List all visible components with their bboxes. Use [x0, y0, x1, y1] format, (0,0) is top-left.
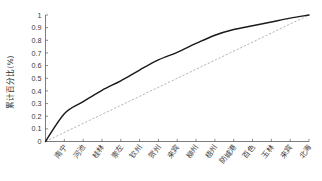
x-tick-label: 河池	[72, 142, 88, 159]
x-tick-label: 来宾	[166, 143, 182, 160]
y-tick-label: 0	[38, 137, 42, 146]
x-tick-label: 桂林	[90, 142, 106, 159]
y-tick-label: 0.2	[32, 112, 42, 121]
y-tick-label: 0.5	[32, 74, 42, 83]
x-tick-label: 贺州	[147, 143, 163, 160]
y-tick-label: 0.6	[32, 61, 42, 70]
y-tick-label: 0.1	[32, 124, 42, 133]
chart-figure: 累计百分比(%) 00.10.20.30.40.50.60.70.80.91 南…	[0, 0, 322, 181]
y-axis-title: 累计百分比(%)	[5, 55, 15, 108]
x-tick-label: 百色	[241, 142, 257, 159]
x-tick-label: 来宾	[279, 143, 295, 160]
cumulative-percentage-chart: 累计百分比(%) 00.10.20.30.40.50.60.70.80.91 南…	[0, 0, 322, 181]
x-axis-tick-labels: 南宁河池桂林崇左钦州贺州来宾柳州梧州防城港百色玉林来宾北海	[53, 142, 314, 165]
x-tick-label: 钦州	[128, 143, 144, 160]
x-tick-label: 防城港	[218, 142, 239, 165]
y-tick-label: 0.8	[32, 36, 42, 45]
y-tick-label: 1	[38, 11, 42, 20]
y-tick-label: 0.7	[32, 49, 42, 58]
x-tick-label: 北海	[297, 142, 313, 159]
x-tick-label: 梧州	[203, 143, 219, 160]
reference-diagonal-line	[46, 15, 310, 142]
y-tick-label: 0.3	[32, 99, 42, 108]
y-tick-label: 0.9	[32, 23, 42, 32]
x-tick-label: 玉林	[260, 142, 276, 159]
y-tick-label: 0.4	[32, 87, 42, 96]
x-tick-label: 柳州	[184, 143, 200, 160]
y-axis-title-group: 累计百分比(%)	[5, 55, 15, 108]
y-axis-tick-labels: 00.10.20.30.40.50.60.70.80.91	[32, 11, 42, 147]
x-tick-label: 南宁	[53, 143, 69, 160]
x-tick-label: 崇左	[109, 143, 125, 160]
